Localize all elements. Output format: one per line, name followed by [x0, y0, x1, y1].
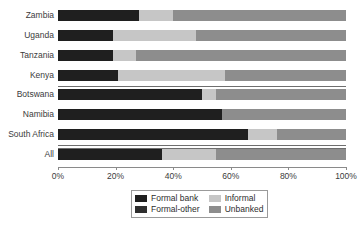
bar-segment — [216, 149, 346, 160]
legend-label-formal-bank: Formal bank — [151, 193, 198, 203]
bar-segment — [58, 70, 118, 81]
bar-segment — [162, 149, 217, 160]
bar-segment — [58, 109, 222, 120]
x-axis-tick-label: 0% — [52, 171, 64, 182]
bar-segment — [58, 129, 248, 140]
legend-swatch-unbanked — [209, 206, 221, 213]
category-label: All — [0, 149, 54, 160]
category-label: Namibia — [0, 109, 54, 120]
x-axis-tick-label: 80% — [280, 171, 297, 182]
bar-rows — [58, 6, 346, 164]
legend-swatch-formal-bank — [135, 195, 147, 202]
category-axis-labels: ZambiaUgandaTanzaniaKenyaBotswanaNamibia… — [0, 6, 54, 164]
category-label: Uganda — [0, 30, 54, 41]
legend-label-informal: Informal — [225, 193, 256, 203]
legend-item-informal: Informal — [209, 193, 264, 203]
bar-segment — [248, 129, 277, 140]
legend-swatch-formal-other — [135, 206, 147, 213]
bar-segment — [173, 10, 346, 21]
bar-row — [58, 30, 346, 41]
bar-segment — [118, 70, 225, 81]
bar-row — [58, 50, 346, 61]
bar-segment — [216, 89, 346, 100]
bar-segment — [225, 70, 346, 81]
x-axis-tick — [231, 167, 232, 170]
bar-segment — [202, 89, 216, 100]
bar-segment — [139, 10, 174, 21]
legend-item-unbanked: Unbanked — [209, 204, 264, 214]
x-axis-tick-label: 60% — [222, 171, 239, 182]
bar-segment — [58, 50, 113, 61]
bar-segment — [58, 149, 162, 160]
x-axis-tick — [58, 167, 59, 170]
chart-legend: Formal bank Informal Formal-other Unbank… — [131, 190, 268, 218]
category-label: South Africa — [0, 129, 54, 140]
bar-row — [58, 129, 346, 140]
legend-item-formal-other: Formal-other — [135, 204, 200, 214]
x-axis-tick — [288, 167, 289, 170]
bar-segment — [196, 30, 346, 41]
x-axis-line — [58, 167, 346, 168]
x-axis-tick-label: 100% — [335, 171, 357, 182]
category-label: Botswana — [0, 89, 54, 100]
bar-row — [58, 109, 346, 120]
bar-row — [58, 89, 346, 100]
bar-segment — [113, 50, 136, 61]
stacked-bar-chart: ZambiaUgandaTanzaniaKenyaBotswanaNamibia… — [0, 0, 362, 228]
group-separator-rule-lower — [58, 148, 346, 149]
bar-row — [58, 149, 346, 160]
legend-item-formal-bank: Formal bank — [135, 193, 200, 203]
category-label: Kenya — [0, 70, 54, 81]
bar-segment — [58, 10, 139, 21]
bar-segment — [113, 30, 197, 41]
bar-segment — [277, 129, 346, 140]
group-separator-rule-top — [58, 86, 346, 87]
bar-segment — [58, 30, 113, 41]
x-axis-tick — [116, 167, 117, 170]
x-axis-tick — [173, 167, 174, 170]
legend-label-unbanked: Unbanked — [225, 204, 264, 214]
category-label: Zambia — [0, 10, 54, 21]
bar-segment — [222, 109, 346, 120]
bar-row — [58, 10, 346, 21]
bar-segment — [58, 89, 202, 100]
plot-area — [58, 6, 346, 164]
x-axis-tick-label: 40% — [165, 171, 182, 182]
bar-row — [58, 70, 346, 81]
category-label: Tanzania — [0, 50, 54, 61]
legend-label-formal-other: Formal-other — [151, 204, 200, 214]
legend-swatch-informal — [209, 195, 221, 202]
x-axis-tick-label: 20% — [107, 171, 124, 182]
x-axis-tick — [346, 167, 347, 170]
bar-segment — [136, 50, 346, 61]
group-separator-rule-upper — [58, 145, 346, 146]
